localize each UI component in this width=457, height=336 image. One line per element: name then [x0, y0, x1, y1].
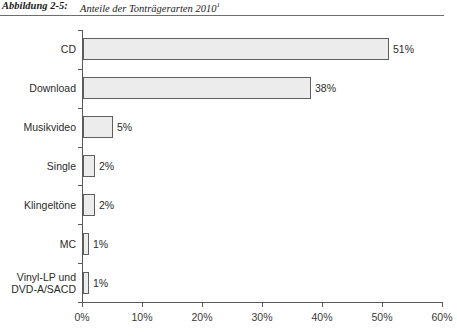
bar-value-label: 1%: [93, 238, 108, 250]
bar: [83, 155, 95, 177]
x-axis-tick: [262, 303, 263, 307]
y-axis-tick: [78, 302, 82, 303]
figure-caption-number: Abbildung 2-5:: [2, 0, 68, 12]
figure-caption: Abbildung 2-5: Anteile der Tonträgerarte…: [0, 0, 447, 12]
y-axis-category-label: Download: [0, 82, 76, 94]
y-axis-category-label-line: MC: [0, 238, 76, 250]
x-axis-tick: [322, 303, 323, 307]
y-axis-tick: [78, 108, 82, 109]
x-axis-tick: [202, 303, 203, 307]
bar: [83, 272, 89, 294]
bar: [83, 194, 95, 216]
x-axis-tick: [82, 303, 83, 307]
figure-caption-footnote-marker: 1: [216, 1, 220, 9]
x-axis-tick: [442, 303, 443, 307]
y-axis-tick: [78, 185, 82, 186]
y-axis-category-label-line: DVD-A/SACD: [0, 283, 76, 295]
x-axis-tick-label: 50%: [352, 311, 412, 323]
x-axis-tick: [382, 303, 383, 307]
x-axis-tick-label: 0%: [52, 311, 112, 323]
x-axis-tick: [142, 303, 143, 307]
y-axis-category-label-line: Download: [0, 82, 76, 94]
x-axis-tick-label: 10%: [112, 311, 172, 323]
bar-chart: 0%10%20%30%40%50%60% CDDownloadMusikvide…: [0, 16, 447, 336]
y-axis-tick: [78, 147, 82, 148]
bar-value-label: 51%: [393, 43, 414, 55]
figure-caption-text: Anteile der Tonträgerarten 20101: [80, 0, 220, 15]
bar-value-label: 1%: [93, 277, 108, 289]
y-axis-category-label: Vinyl-LP undDVD-A/SACD: [0, 271, 76, 295]
y-axis-category-label-line: Vinyl-LP und: [0, 271, 76, 283]
bar-value-label: 5%: [117, 121, 132, 133]
bar: [83, 77, 311, 99]
y-axis-category-label-line: Klingeltöne: [0, 199, 76, 211]
y-axis-tick: [78, 263, 82, 264]
y-axis-category-label: CD: [0, 43, 76, 55]
y-axis-category-label: Klingeltöne: [0, 199, 76, 211]
y-axis-category-label: MC: [0, 238, 76, 250]
y-axis-category-label-line: CD: [0, 43, 76, 55]
y-axis-tick: [78, 69, 82, 70]
y-axis-tick: [78, 224, 82, 225]
y-axis-category-label: Musikvideo: [0, 121, 76, 133]
x-axis-tick-label: 60%: [412, 311, 457, 323]
y-axis-tick: [78, 30, 82, 31]
y-axis-category-label: Single: [0, 160, 76, 172]
x-axis-tick-label: 40%: [292, 311, 352, 323]
y-axis-category-label-line: Single: [0, 160, 76, 172]
figure-caption-title: Anteile der Tonträgerarten 2010: [80, 3, 216, 14]
bar: [83, 116, 113, 138]
bar: [83, 233, 89, 255]
bar-value-label: 38%: [315, 82, 336, 94]
x-axis-tick-label: 20%: [172, 311, 232, 323]
bar: [83, 38, 389, 60]
bar-value-label: 2%: [99, 160, 114, 172]
bar-value-label: 2%: [99, 199, 114, 211]
y-axis-category-label-line: Musikvideo: [0, 121, 76, 133]
x-axis-tick-label: 30%: [232, 311, 292, 323]
